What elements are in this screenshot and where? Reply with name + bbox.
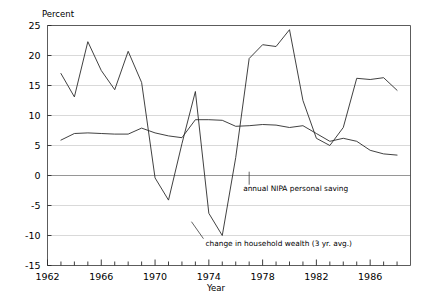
data-series-group — [61, 30, 397, 236]
chart-container: 2520151050-5-10-15 196219661970197419781… — [0, 0, 432, 304]
x-tick-label: 1974 — [197, 271, 221, 282]
x-tick-label: 1962 — [35, 271, 59, 282]
series-line-household-wealth — [61, 30, 397, 236]
y-tick-label: 5 — [34, 140, 40, 151]
y-axis-tick-labels: 2520151050-5-10-15 — [25, 20, 41, 271]
x-tick-label: 1982 — [304, 271, 328, 282]
y-tick-label: 0 — [34, 170, 40, 181]
line-chart: 2520151050-5-10-15 196219661970197419781… — [0, 0, 432, 304]
x-tick-label: 1978 — [251, 271, 275, 282]
annotation-label-household-wealth: change in household wealth (3 yr. avg.) — [205, 239, 352, 248]
y-tick-label: 15 — [28, 80, 40, 91]
annotation-group: annual NIPA personal savingchange in hou… — [191, 172, 352, 248]
x-axis-tick-labels: 1962196619701974197819821986 — [35, 271, 382, 282]
y-tick-label: -15 — [25, 260, 41, 271]
y-tick-label: -10 — [25, 230, 41, 241]
grid-lines — [48, 56, 411, 236]
y-tick-label: 10 — [28, 110, 40, 121]
y-axis-ticks — [48, 26, 52, 266]
series-line-nipa-saving — [61, 120, 397, 155]
y-tick-label: 20 — [28, 50, 40, 61]
x-axis-ticks — [48, 260, 398, 266]
x-tick-label: 1986 — [358, 271, 382, 282]
x-tick-label: 1966 — [89, 271, 113, 282]
x-tick-label: 1970 — [143, 271, 167, 282]
x-axis-title: Year — [206, 283, 226, 293]
y-tick-label: 25 — [28, 20, 40, 31]
annotation-label-nipa-saving: annual NIPA personal saving — [243, 184, 348, 193]
y-tick-label: -5 — [31, 200, 40, 211]
y-axis-title: Percent — [42, 9, 75, 19]
